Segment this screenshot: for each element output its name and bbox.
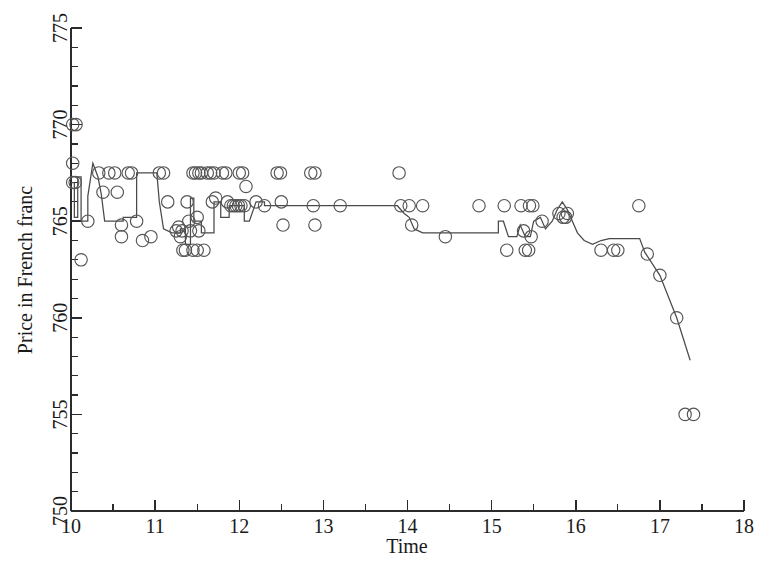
data-point-marker bbox=[181, 196, 193, 208]
data-point-marker bbox=[145, 230, 157, 242]
data-point-marker bbox=[162, 196, 174, 208]
data-point-marker bbox=[240, 180, 252, 192]
data-point-marker bbox=[501, 244, 513, 256]
data-point-marker bbox=[309, 219, 321, 231]
data-point-marker bbox=[271, 167, 283, 179]
data-point-marker bbox=[233, 167, 245, 179]
data-point-marker bbox=[595, 244, 607, 256]
data-point-marker bbox=[216, 167, 228, 179]
x-axis-title: Time bbox=[386, 535, 428, 557]
data-point-marker bbox=[641, 248, 653, 260]
data-point-marker bbox=[204, 167, 216, 179]
x-tick-label: 17 bbox=[650, 515, 670, 537]
data-point-marker bbox=[115, 230, 127, 242]
y-tick-label: 775 bbox=[49, 13, 71, 43]
x-tick-label: 16 bbox=[566, 515, 586, 537]
price-path-line bbox=[71, 163, 690, 360]
scatter-plot-svg: 750755760765770775 101112131415161718 Ti… bbox=[0, 0, 770, 582]
axis-lines bbox=[71, 28, 744, 511]
data-point-marker bbox=[97, 186, 109, 198]
y-tick-label: 770 bbox=[49, 110, 71, 140]
data-point-marker bbox=[179, 244, 191, 256]
data-point-marker bbox=[274, 167, 286, 179]
data-point-marker bbox=[527, 200, 539, 212]
data-point-marker bbox=[406, 219, 418, 231]
data-point-marker bbox=[416, 200, 428, 212]
y-tick-label: 755 bbox=[49, 399, 71, 429]
data-point-marker bbox=[633, 200, 645, 212]
chart-figure: 750755760765770775 101112131415161718 Ti… bbox=[0, 0, 770, 582]
data-point-marker bbox=[193, 225, 205, 237]
x-tick-label: 12 bbox=[229, 515, 249, 537]
y-tick-label: 765 bbox=[49, 206, 71, 236]
x-axis-ticks bbox=[71, 500, 744, 511]
data-point-marker bbox=[122, 167, 134, 179]
data-point-marker bbox=[523, 200, 535, 212]
data-point-marker bbox=[136, 234, 148, 246]
data-point-marker bbox=[498, 200, 510, 212]
x-tick-label: 11 bbox=[145, 515, 164, 537]
y-axis-ticks bbox=[71, 28, 82, 511]
data-point-marker bbox=[236, 167, 248, 179]
x-tick-label: 14 bbox=[398, 515, 418, 537]
y-tick-label: 760 bbox=[49, 303, 71, 333]
data-point-marker bbox=[522, 244, 534, 256]
x-tick-label: 13 bbox=[313, 515, 333, 537]
y-axis-tick-labels: 750755760765770775 bbox=[49, 13, 71, 526]
data-point-marker bbox=[519, 244, 531, 256]
x-axis-tick-labels: 101112131415161718 bbox=[61, 515, 754, 537]
data-point-marker bbox=[393, 167, 405, 179]
data-point-marker bbox=[473, 200, 485, 212]
y-axis-title: Price in French franc bbox=[14, 186, 36, 354]
data-point-marker bbox=[687, 408, 699, 420]
x-tick-label: 18 bbox=[734, 515, 754, 537]
x-tick-label: 10 bbox=[61, 515, 81, 537]
data-point-marker bbox=[220, 167, 232, 179]
x-tick-label: 15 bbox=[482, 515, 502, 537]
data-point-marker bbox=[277, 219, 289, 231]
price-scatter-markers bbox=[66, 118, 699, 420]
data-point-marker bbox=[111, 186, 123, 198]
data-point-marker bbox=[125, 167, 137, 179]
data-point-marker bbox=[403, 200, 415, 212]
